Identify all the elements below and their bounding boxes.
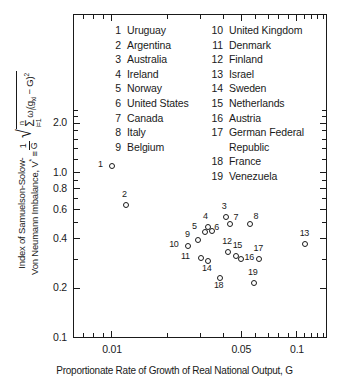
y-axis-tick	[73, 188, 80, 189]
legend-item-label: German Federal	[229, 126, 304, 138]
y-axis-tick	[73, 172, 80, 173]
legend-item: 10United Kingdom	[208, 24, 302, 36]
x-axis-tick	[288, 333, 289, 338]
legend-item-label: Netherlands	[229, 97, 285, 109]
legend-item-number: 5	[106, 82, 121, 94]
y-axis-tick	[73, 130, 78, 131]
data-point-marker	[256, 256, 262, 262]
x-axis-tick-top	[255, 14, 256, 19]
y-axis-tick-right	[320, 188, 327, 189]
legend-item: 1Uruguay	[106, 24, 166, 36]
y-axis-title-radical: √nΣi=1ωi(gxi − G)2	[16, 71, 42, 139]
legend-item-label: Austria	[229, 112, 261, 124]
legend-item-number: 3	[106, 53, 121, 65]
legend-item-number: 8	[106, 126, 121, 138]
data-point-marker	[223, 214, 229, 220]
legend-item-number: 14	[208, 82, 223, 94]
legend-item-number: 10	[208, 24, 223, 36]
x-axis-tick	[278, 333, 279, 338]
legend-item-number: 17	[208, 126, 223, 138]
x-axis-tick-top	[304, 14, 305, 19]
legend-item: Republic	[208, 141, 269, 153]
y-axis-tick	[73, 123, 80, 124]
y-axis-title-line1: Index of Samuelson-Solow-Von Neumann Imb…	[17, 151, 41, 275]
legend-item-number: 4	[106, 68, 121, 80]
x-axis-tick	[83, 333, 84, 338]
y-axis-title: Index of Samuelson-Solow-Von Neumann Imb…	[18, 23, 40, 323]
x-axis-tick-top	[288, 14, 289, 19]
y-axis-tick-right	[322, 148, 327, 149]
y-axis-tick	[73, 337, 80, 338]
y-axis-tick-right	[320, 238, 327, 239]
legend-item-label: Sweden	[229, 82, 266, 94]
y-axis-tick	[73, 148, 78, 149]
y-axis-tick	[73, 159, 78, 160]
y-axis-tick-right	[320, 209, 327, 210]
y-axis-tick	[73, 222, 78, 223]
y-axis-tick-right	[322, 110, 327, 111]
legend-item-label: Republic	[229, 141, 269, 153]
legend-item: 18France	[208, 155, 261, 167]
legend-item-label: United Kingdom	[229, 24, 302, 36]
legend-item: 12Finland	[208, 53, 263, 65]
legend-item: 7Canada	[106, 112, 163, 124]
x-axis-tick-top	[278, 14, 279, 19]
x-axis-tick	[255, 333, 256, 338]
legend-item-label: Belgium	[127, 141, 164, 153]
x-axis-tick	[311, 333, 312, 338]
legend-item-label: Ireland	[127, 68, 158, 80]
y-axis-tick	[73, 180, 78, 181]
legend-item: 17German Federal	[208, 126, 304, 138]
x-axis-tick	[93, 333, 94, 338]
x-axis-tick-label: 0.05	[214, 343, 268, 355]
x-axis-tick	[304, 333, 305, 338]
data-point-label: 12	[222, 236, 231, 246]
data-point-label: 6	[214, 222, 219, 232]
x-axis-tick-top	[311, 14, 312, 19]
legend-item-label: Canada	[127, 112, 163, 124]
x-axis-tick-top	[111, 14, 112, 21]
y-axis-tick	[73, 209, 80, 210]
x-axis-tick	[323, 333, 324, 338]
legend-item-label: Israel	[229, 68, 254, 80]
y-axis-tick-label: 0.1	[21, 331, 67, 343]
data-point-marker	[195, 237, 201, 243]
x-axis-tick	[111, 331, 112, 338]
legend-item-number: 13	[208, 68, 223, 80]
y-axis-tick-right	[322, 180, 327, 181]
legend-item-label: Uruguay	[127, 24, 166, 36]
legend-item-number: 15	[208, 97, 223, 109]
y-axis-tick-right	[320, 288, 327, 289]
data-point-label: 13	[300, 228, 309, 238]
legend-item: 14Sweden	[208, 82, 266, 94]
x-axis-tick	[241, 331, 242, 338]
y-axis-tick-right	[322, 130, 327, 131]
legend-item-number: 12	[208, 53, 223, 65]
legend-item: 15Netherlands	[208, 97, 285, 109]
y-axis-tick	[73, 116, 78, 117]
y-axis-tick-right	[320, 172, 327, 173]
legend-item: 2Argentina	[106, 39, 171, 51]
y-axis-tick-right	[320, 123, 327, 124]
x-axis-tick-label: 0.1	[270, 343, 324, 355]
y-axis-title-content: Index of Samuelson-Solow-Von Neumann Imb…	[16, 71, 42, 275]
x-axis-tick	[167, 333, 168, 338]
data-point-marker	[238, 256, 244, 262]
y-axis-tick-right	[322, 159, 327, 160]
legend-item: 9Belgium	[106, 141, 164, 153]
legend-item-number: 18	[208, 155, 223, 167]
legend-item: 19Venezuela	[208, 170, 277, 182]
y-axis-title-fraction: 1G	[19, 141, 39, 150]
data-point-label: 1	[98, 159, 103, 169]
legend-item-label: France	[229, 155, 261, 167]
legend-item-label: United States	[127, 97, 189, 109]
y-axis-tick-right	[322, 259, 327, 260]
legend-item-number: 11	[208, 39, 223, 51]
legend-item-label: Venezuela	[229, 170, 277, 182]
x-axis-tick-label: 0.01	[85, 343, 139, 355]
x-axis-tick-top	[103, 14, 104, 19]
y-axis-tick	[73, 139, 78, 140]
legend-item: 5Norway	[106, 82, 162, 94]
data-point-label: 14	[202, 263, 211, 273]
y-axis-tick-right	[322, 139, 327, 140]
